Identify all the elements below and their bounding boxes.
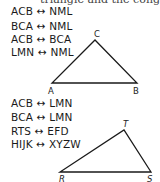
triangle-abc-outline: [52, 40, 137, 83]
triangle-abc: A B C: [48, 29, 139, 96]
vertex-label-t: T: [123, 119, 129, 129]
vertex-label-r: R: [59, 174, 65, 182]
vertex-label-c: C: [94, 29, 100, 39]
vertex-label-a: A: [48, 86, 54, 96]
triangle-figures: A B C R S T: [0, 0, 160, 182]
triangle-rst: R S T: [59, 119, 153, 182]
triangle-rst-outline: [60, 130, 151, 172]
vertex-label-s: S: [147, 174, 153, 182]
vertex-label-b: B: [133, 86, 139, 96]
